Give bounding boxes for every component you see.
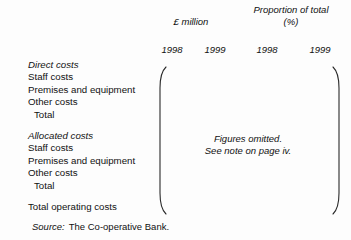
row-total-operating-costs: Total operating costs [28,201,117,213]
financial-table-figure: £ million Proportion of total (%) 1998 1… [0,0,351,240]
source-label: Source: [32,221,65,232]
row-allocated-other-costs: Other costs [28,167,160,179]
year-header-proportion-1998: 1998 [250,44,284,56]
row-allocated-premises-and-equipment: Premises and equipment [28,155,160,167]
row-direct-premises-and-equipment: Premises and equipment [28,84,160,96]
figures-omitted-note: Figures omitted. See note on page iv. [178,133,318,156]
year-header-money-1998: 1998 [155,44,189,56]
source-value: The Co-operative Bank. [69,221,169,232]
row-allocated-total: Total [28,180,160,192]
year-header-proportion-1999: 1999 [303,44,337,56]
left-bracket-icon [155,66,171,215]
row-direct-total: Total [28,109,160,121]
row-allocated-staff-costs: Staff costs [28,142,160,154]
source-line: Source:The Co-operative Bank. [32,221,169,233]
row-block-spacer [28,121,160,130]
row-direct-staff-costs: Staff costs [28,71,160,83]
row-group-title-direct-costs: Direct costs [28,59,160,71]
year-header-money-1999: 1999 [198,44,232,56]
column-group-heading-money: £ million [150,16,232,28]
row-direct-other-costs: Other costs [28,96,160,108]
right-bracket-icon [328,66,344,215]
row-group-title-allocated-costs: Allocated costs [28,130,160,142]
column-group-heading-proportion: Proportion of total (%) [238,4,344,27]
year-header-row: 1998 1999 1998 1999 [0,44,351,56]
row-label-column: Direct costs Staff costs Premises and eq… [28,59,160,192]
